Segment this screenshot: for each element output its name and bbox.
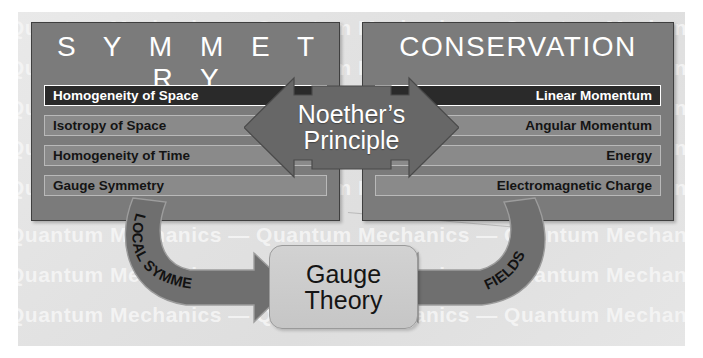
local-symmetry-label: LOCAL SYMMETRY [18,12,194,292]
diagram-root: Quantum Mechanics — Quantum Mechanics — … [0,0,703,358]
gauge-theory-box[interactable]: Gauge Theory [269,245,418,329]
poster-canvas: Quantum Mechanics — Quantum Mechanics — … [18,12,685,346]
double-arrow-shape [244,64,459,191]
gauge-theory-line1: Gauge [306,261,381,287]
gauge-theory-line2: Theory [305,287,383,313]
noethers-principle-arrow[interactable]: Noether’s Principle [244,64,459,191]
